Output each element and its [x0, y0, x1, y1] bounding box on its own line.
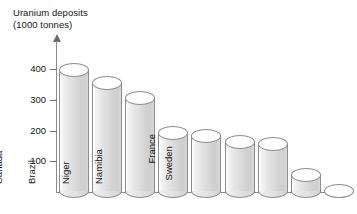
uranium-deposits-chart: Uranium deposits (1000 tonnes) 100200300… [0, 0, 357, 214]
cylinder-bar [324, 184, 354, 198]
cylinder-top-ellipse [125, 91, 155, 105]
plot-area: USAAustraliaS. AfricaCanadaBrazilNigerNa… [0, 0, 357, 214]
cylinder-top-ellipse [324, 184, 354, 198]
cylinder-top-ellipse [92, 76, 122, 90]
category-label: Sweden [163, 146, 343, 180]
